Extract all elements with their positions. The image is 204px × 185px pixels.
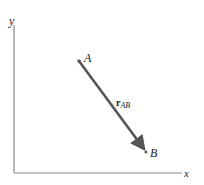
point-a-label: A bbox=[84, 52, 91, 64]
point-b-label: B bbox=[150, 147, 157, 159]
vector-r-ab-label: rAB bbox=[116, 98, 130, 110]
diagram-svg bbox=[0, 0, 204, 185]
y-axis-label: y bbox=[9, 15, 14, 27]
x-axis-label: x bbox=[184, 168, 189, 179]
vector-subscript: AB bbox=[120, 101, 130, 110]
point-b-marker bbox=[144, 150, 147, 153]
vector-r-ab-arrow bbox=[79, 61, 144, 149]
position-vector-diagram: y x A B rAB bbox=[0, 0, 204, 185]
